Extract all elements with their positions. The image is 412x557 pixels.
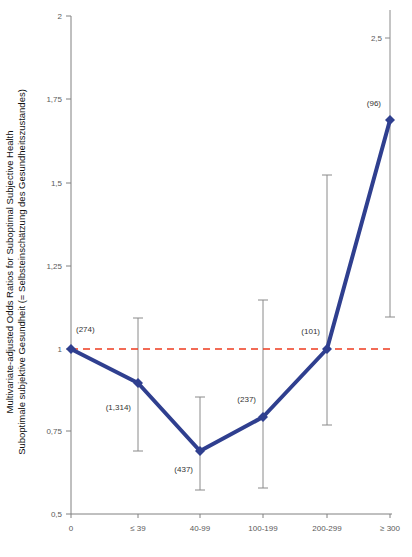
y-tick-label: 2 bbox=[58, 12, 63, 21]
data-point-marker[interactable] bbox=[385, 115, 395, 125]
data-point-labels: (274) (1,314) (437) (237) (101) (96) bbox=[76, 99, 381, 474]
y-tick-1-75: 1,75 bbox=[46, 95, 71, 104]
chart-container: Multivariate-adjusted Odds Ratios for Su… bbox=[0, 0, 412, 557]
x-tick-label: ≤ 39 bbox=[130, 524, 146, 533]
y-tick-0-75: 0,75 bbox=[46, 427, 71, 436]
x-tick-100-199: 100-199 bbox=[248, 514, 278, 533]
error-bar-200-299 bbox=[322, 175, 332, 425]
y-tick-label: 0,5 bbox=[51, 510, 63, 519]
data-point-label: (101) bbox=[301, 327, 320, 336]
x-tick-label: 0 bbox=[69, 524, 74, 533]
y-axis-title-line1: Multivariate-adjusted Odds Ratios for Su… bbox=[4, 130, 15, 413]
data-point-label: (274) bbox=[76, 325, 95, 334]
overflow-annotation-label: 2,5 bbox=[371, 34, 383, 43]
error-bar-ge300: 2,5 bbox=[371, 10, 395, 317]
x-tick-label: ≥ 300 bbox=[380, 524, 401, 533]
y-tick-2: 2 bbox=[58, 12, 71, 21]
y-tick-label: 1,75 bbox=[46, 95, 62, 104]
x-axis: 0 ≤ 39 40-99 100-199 200-299 ≥ 300 bbox=[69, 514, 401, 533]
x-tick-label: 40-99 bbox=[190, 524, 211, 533]
y-tick-0-5: 0,5 bbox=[51, 510, 71, 519]
y-axis-title-line2: Suboptimale subjektive Gesundheit (= Sel… bbox=[16, 89, 27, 455]
y-tick-label: 1,5 bbox=[51, 179, 63, 188]
x-tick-0: 0 bbox=[69, 514, 74, 533]
error-bar-40-99 bbox=[195, 397, 205, 490]
odds-ratio-chart: Multivariate-adjusted Odds Ratios for Su… bbox=[0, 0, 412, 557]
error-bar-100-199 bbox=[258, 300, 268, 488]
y-tick-label: 0,75 bbox=[46, 427, 62, 436]
x-tick-200-299: 200-299 bbox=[312, 514, 342, 533]
x-tick-ge300: ≥ 300 bbox=[380, 514, 401, 533]
y-tick-1-5: 1,5 bbox=[51, 179, 71, 188]
y-tick-label: 1,25 bbox=[46, 262, 62, 271]
data-point-label: (237) bbox=[237, 395, 256, 404]
y-tick-label: 1 bbox=[58, 345, 63, 354]
odds-ratio-line bbox=[71, 120, 390, 451]
data-point-label: (437) bbox=[174, 465, 193, 474]
data-point-label: (96) bbox=[367, 99, 382, 108]
x-tick-label: 100-199 bbox=[248, 524, 278, 533]
data-point-label: (1,314) bbox=[106, 403, 132, 412]
x-tick-40-99: 40-99 bbox=[190, 514, 211, 533]
y-axis-title: Multivariate-adjusted Odds Ratios for Su… bbox=[4, 89, 27, 455]
x-tick-label: 200-299 bbox=[312, 524, 342, 533]
y-tick-1-25: 1,25 bbox=[46, 262, 71, 271]
x-tick-le39: ≤ 39 bbox=[130, 514, 146, 533]
y-axis: 2 1,75 1,5 1,25 1 0,75 bbox=[46, 12, 71, 519]
